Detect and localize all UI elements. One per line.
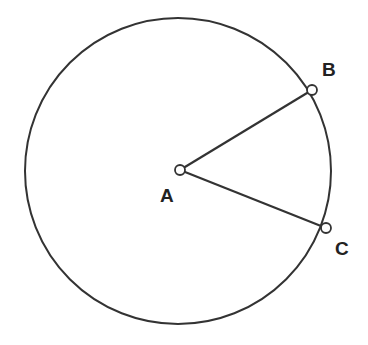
label-a: A bbox=[160, 185, 174, 206]
point-c bbox=[321, 223, 331, 233]
segment-ac bbox=[180, 170, 326, 228]
label-b: B bbox=[322, 59, 336, 80]
point-a bbox=[175, 165, 185, 175]
point-b bbox=[307, 85, 317, 95]
circle-diagram: A B C bbox=[0, 0, 368, 345]
segment-ab bbox=[180, 90, 312, 170]
label-c: C bbox=[335, 238, 349, 259]
